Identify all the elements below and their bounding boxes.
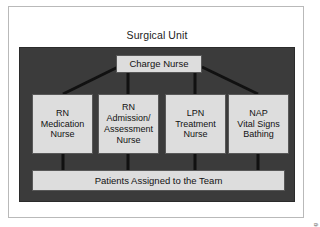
- page-title: Surgical Unit: [9, 29, 305, 41]
- node-rn-admission-line2: Admission/: [104, 113, 153, 124]
- node-rn-medication-label: RN Medication Nurse: [41, 108, 85, 141]
- node-rn-admission-line3: Assessment: [104, 124, 153, 135]
- edge-charge-to-rn-medication: [63, 67, 118, 94]
- org-chart-panel: Charge Nurse RN Medication Nurse RN Admi…: [19, 47, 295, 202]
- node-nap-vitals: NAP Vital Signs Bathing: [228, 94, 289, 154]
- attribution-text: Delmar/Cengage Learning: [312, 223, 318, 227]
- node-rn-medication-line1: RN: [41, 108, 85, 119]
- node-rn-admission-label: RN Admission/ Assessment Nurse: [104, 102, 153, 146]
- edge-charge-to-nap-vitals: [202, 67, 258, 94]
- node-rn-admission-line4: Nurse: [104, 135, 153, 146]
- node-rn-medication-line2: Medication: [41, 119, 85, 130]
- node-lpn-treatment-label: LPN Treatment Nurse: [175, 108, 216, 141]
- node-lpn-treatment-line1: LPN: [175, 108, 216, 119]
- node-lpn-treatment: LPN Treatment Nurse: [165, 94, 226, 154]
- node-nap-vitals-label: NAP Vital Signs Bathing: [237, 108, 279, 141]
- node-patients-assigned: Patients Assigned to the Team: [32, 170, 285, 191]
- node-rn-medication: RN Medication Nurse: [32, 94, 93, 154]
- figure-frame: Surgical Unit Charge Nurse RN Medication…: [8, 6, 304, 218]
- node-nap-vitals-line3: Bathing: [237, 129, 279, 140]
- node-lpn-treatment-line2: Treatment: [175, 119, 216, 130]
- node-charge-nurse-label: Charge Nurse: [129, 58, 188, 70]
- node-nap-vitals-line1: NAP: [237, 108, 279, 119]
- node-nap-vitals-line2: Vital Signs: [237, 119, 279, 130]
- node-lpn-treatment-line3: Nurse: [175, 129, 216, 140]
- node-charge-nurse: Charge Nurse: [116, 55, 202, 73]
- node-rn-admission: RN Admission/ Assessment Nurse: [98, 94, 159, 154]
- node-patients-label: Patients Assigned to the Team: [95, 175, 223, 187]
- node-rn-medication-line3: Nurse: [41, 129, 85, 140]
- node-rn-admission-line1: RN: [104, 102, 153, 113]
